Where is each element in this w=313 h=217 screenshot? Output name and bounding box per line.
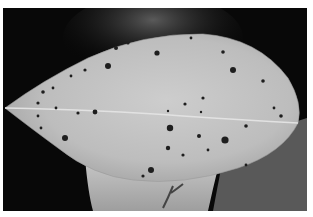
leaf-photo (3, 8, 307, 211)
